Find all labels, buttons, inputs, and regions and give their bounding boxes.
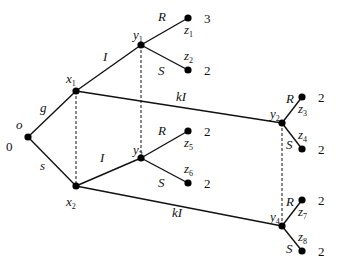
edge-y3-z6 (141, 158, 188, 183)
node-z3 (298, 93, 305, 100)
labels: gsIkIIkIRSRSRSRSo0x1x2y1y2y3y4z13z22z32z… (6, 9, 325, 259)
edge-o-x1 (28, 91, 76, 137)
payoff-z7: 2 (318, 193, 325, 208)
edge-y1-z2 (141, 45, 188, 70)
node-z5 (184, 127, 191, 134)
node-z8 (298, 247, 305, 254)
payoff-z3: 2 (318, 90, 325, 105)
node-x1 (72, 87, 79, 94)
node-z1 (184, 14, 191, 21)
payoff-z8: 2 (318, 244, 325, 259)
node-x2 (72, 182, 79, 189)
node-label-y4: y4 (268, 209, 280, 226)
node-label-o: o (16, 117, 23, 132)
node-label-z4: z4 (297, 127, 307, 144)
edge-label-o-x2: s (40, 158, 45, 173)
payoff-z5: 2 (204, 124, 211, 139)
edge-o-x2 (28, 137, 76, 186)
payoff-z4: 2 (318, 142, 325, 157)
edge-x2-y3 (76, 158, 141, 186)
edge-label-y4-z7: R (285, 194, 294, 209)
node-label-x2: x2 (65, 194, 76, 211)
node-label-z2: z2 (183, 48, 193, 65)
node-label-y2: y2 (268, 106, 280, 123)
edge-label-x2-y4: kI (172, 205, 183, 220)
edge-label-y1-z1: R (157, 9, 166, 24)
payoff-z2: 2 (204, 63, 211, 78)
node-label-z8: z8 (297, 229, 307, 246)
edge-label-x1-y2: kI (176, 89, 187, 104)
node-o (24, 133, 31, 140)
node-label-z3: z3 (297, 101, 307, 118)
node-z7 (298, 196, 305, 203)
root-value: 0 (6, 139, 13, 154)
node-label-y3: y3 (131, 142, 143, 159)
payoff-z6: 2 (204, 176, 211, 191)
edge-label-y2-z3: R (285, 91, 294, 106)
edge-label-x2-y3: I (99, 150, 105, 165)
node-z2 (184, 66, 191, 73)
edge-label-y3-z6: S (158, 175, 165, 190)
edge-label-y3-z5: R (157, 123, 166, 138)
game-tree-diagram: gsIkIIkIRSRSRSRSo0x1x2y1y2y3y4z13z22z32z… (0, 0, 340, 270)
edge-label-y2-z4: S (286, 137, 293, 152)
edge-label-y1-z2: S (158, 63, 165, 78)
node-label-x1: x1 (65, 71, 76, 88)
edge-label-o-x1: g (40, 100, 47, 115)
node-z4 (298, 145, 305, 152)
node-label-z7: z7 (297, 204, 307, 221)
edge-label-x1-y1: I (102, 49, 108, 64)
node-label-z6: z6 (183, 161, 193, 178)
node-label-z5: z5 (183, 135, 193, 152)
node-label-y1: y1 (131, 27, 143, 44)
edge-label-y4-z8: S (286, 241, 293, 256)
edge-x1-y1 (76, 45, 141, 91)
node-z6 (184, 179, 191, 186)
payoff-z1: 3 (204, 11, 211, 26)
node-label-z1: z1 (183, 22, 193, 39)
